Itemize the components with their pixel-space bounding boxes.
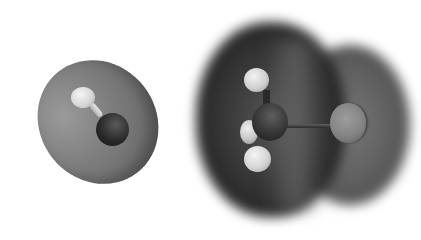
hydrogen-atom-bottom	[244, 146, 271, 172]
halogen-atom	[330, 103, 366, 143]
hydrogen-atom-top	[244, 68, 269, 92]
c-x-bond	[286, 124, 336, 128]
oxygen-atom	[96, 113, 129, 146]
hydrogen-atom	[71, 87, 95, 108]
carbon-atom	[252, 103, 288, 141]
